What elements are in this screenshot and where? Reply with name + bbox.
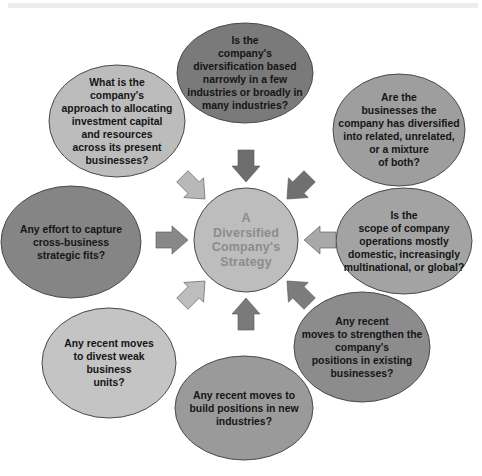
arrow-from-upper-right-icon [277,166,319,208]
arrow-from-right-icon [304,226,336,254]
center-circle [194,188,298,292]
question-bubble-upper-left [49,65,185,177]
question-bubble-top [177,23,313,123]
arrow-from-upper-left-icon [172,166,214,208]
question-bubble-upper-right [333,74,465,186]
strategy-diagram [0,0,482,476]
question-bubble-right [336,188,472,294]
arrow-from-left-icon [156,226,188,254]
question-bubble-lower-left [42,308,176,418]
arrow-from-lower-left-icon [172,271,214,313]
arrow-from-bottom-icon [232,298,260,330]
question-bubble-lower-right [294,292,430,402]
question-bubble-left [1,186,141,298]
question-bubble-bottom [175,356,313,460]
arrow-from-top-icon [232,150,260,182]
arrow-from-lower-right-icon [277,271,319,313]
